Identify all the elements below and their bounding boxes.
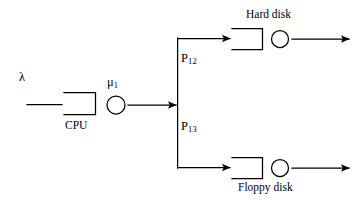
p13-symbol: P [181, 119, 188, 133]
cpu-server-circle [107, 96, 125, 114]
hard-disk-queue-box [232, 29, 263, 50]
p13-subscript: 13 [188, 124, 197, 134]
queueing-network-diagram: λ μ1 CPU P12 P13 Hard disk Floppy disk [0, 0, 361, 208]
p12-subscript: 12 [188, 56, 197, 66]
hard-disk-station-label: Hard disk [246, 9, 291, 21]
p12-symbol: P [181, 51, 188, 65]
floppy-disk-server-circle [272, 160, 289, 177]
mu-subscript: 1 [114, 80, 118, 90]
diagram-canvas [0, 0, 361, 208]
floppy-disk-station-label: Floppy disk [238, 182, 293, 194]
cpu-service-rate-label: μ1 [107, 76, 118, 90]
mu-symbol: μ [107, 75, 114, 89]
branch-probability-floppy-label: P13 [181, 120, 197, 134]
arrival-rate-label: λ [19, 71, 25, 84]
branch-probability-hard-label: P12 [181, 52, 197, 66]
cpu-station-label: CPU [65, 120, 87, 132]
cpu-queue-box [64, 93, 96, 115]
floppy-disk-queue-box [232, 158, 263, 179]
hard-disk-server-circle [272, 31, 289, 48]
